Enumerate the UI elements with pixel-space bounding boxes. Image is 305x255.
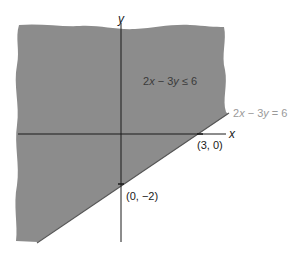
graph-canvas (0, 0, 305, 255)
x-axis-label: x (229, 128, 235, 140)
point-label-3-0: (3, 0) (197, 140, 223, 151)
equation-relation: = 6 (269, 107, 288, 119)
shaded-region (15, 24, 228, 242)
y-axis-label: y (118, 13, 124, 25)
point-label-0-neg2: (0, −2) (126, 191, 158, 202)
equation-op: − 3 (245, 107, 264, 119)
inequality-graph: y x 2x − 3y ≤ 6 2x − 3y = 6 (3, 0) (0, −… (0, 0, 305, 255)
inequality-op: − 3 (155, 75, 174, 87)
inequality-label: 2x − 3y ≤ 6 (143, 76, 197, 87)
boundary-equation-label: 2x − 3y = 6 (233, 108, 287, 119)
inequality-relation: ≤ 6 (179, 75, 197, 87)
